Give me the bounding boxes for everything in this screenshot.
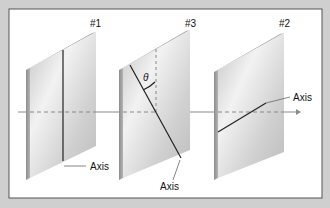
theta-symbol: θ — [143, 72, 149, 83]
axis-label-1: Axis — [90, 161, 109, 172]
diagram-container: #1 Axis θ #3 Axis #2 Axis — [0, 0, 330, 208]
label-3: #3 — [185, 18, 197, 29]
axis-label-3: Axis — [160, 181, 179, 192]
label-2: #2 — [279, 18, 291, 29]
label-1: #1 — [90, 18, 102, 29]
axis-label-2: Axis — [293, 92, 312, 103]
